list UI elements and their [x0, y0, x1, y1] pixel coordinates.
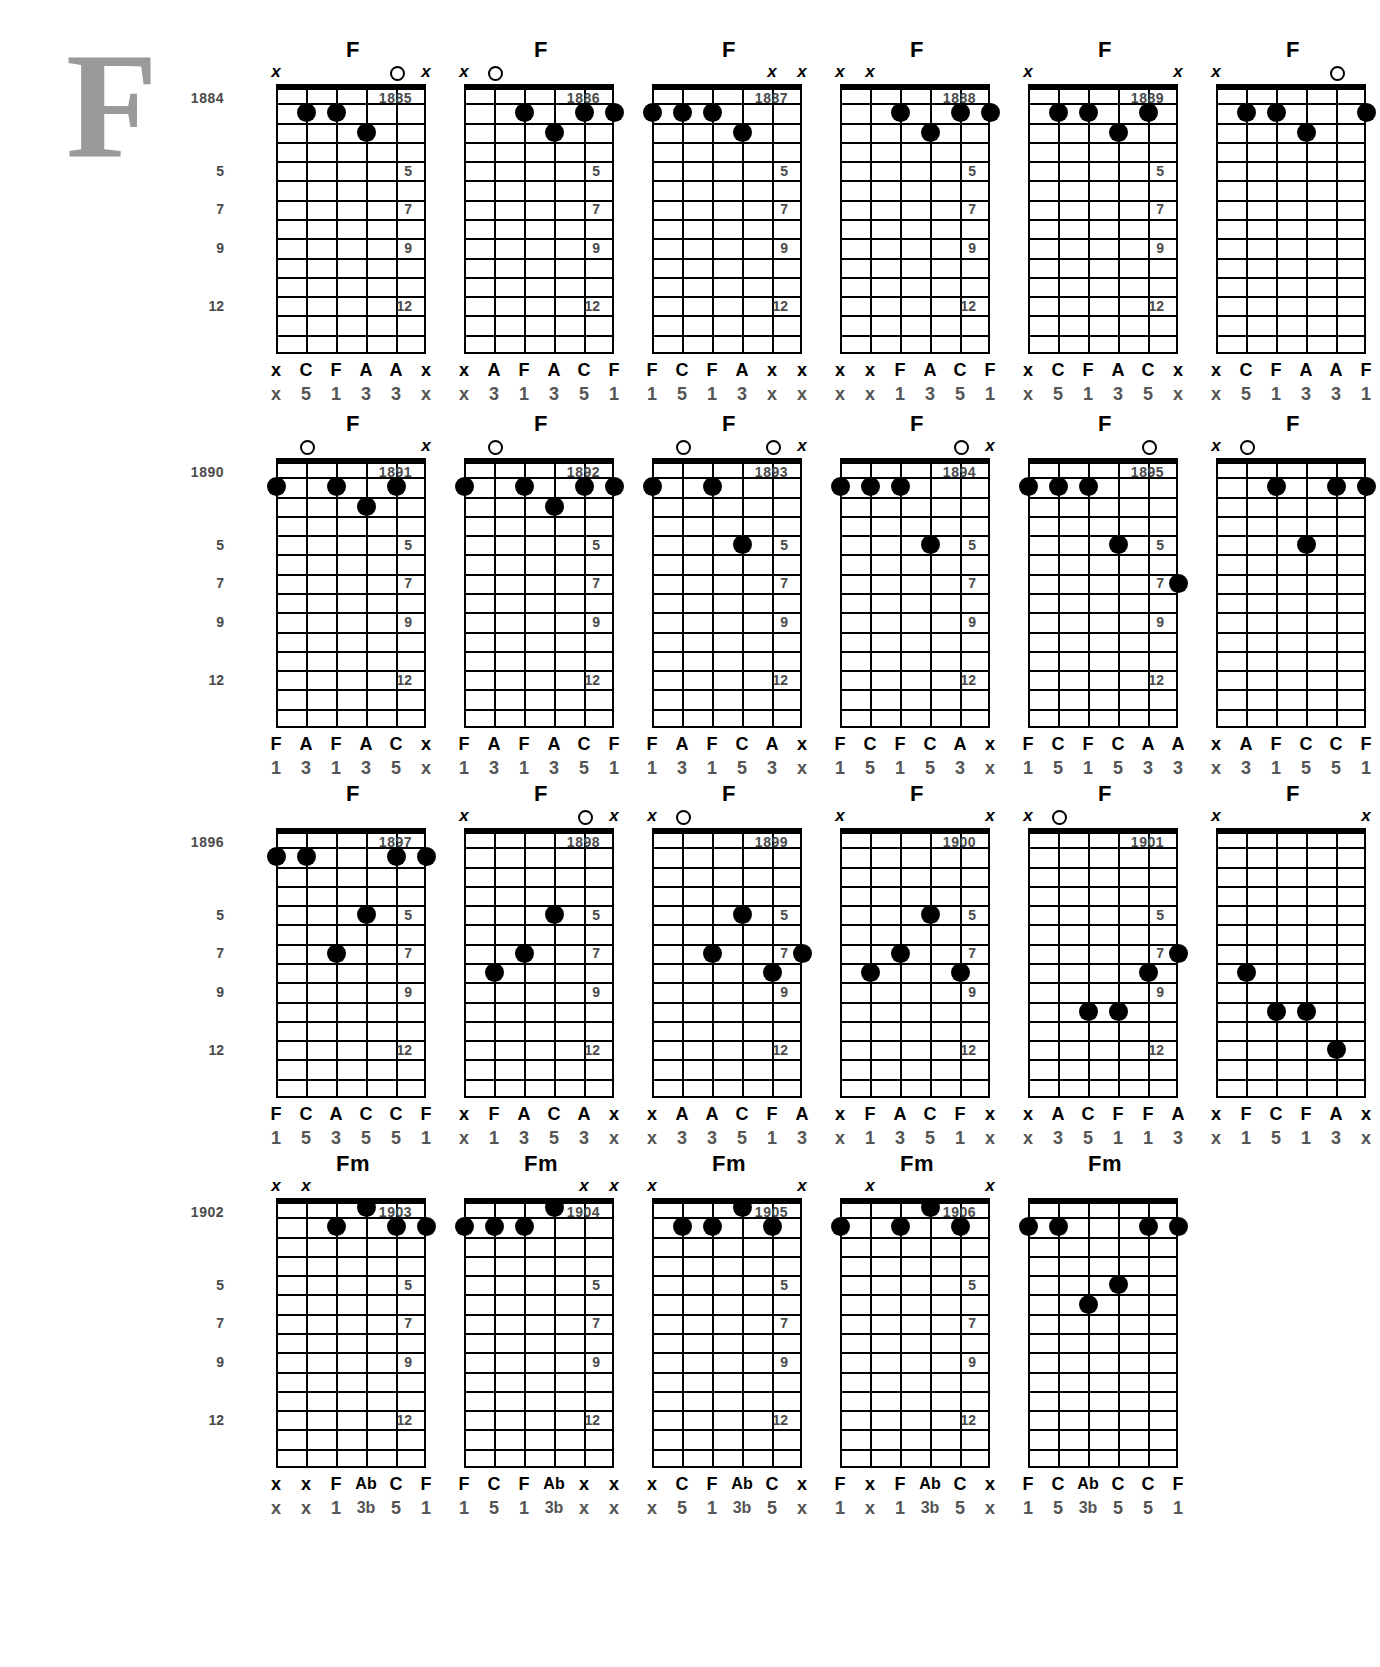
- degree-label: 3: [479, 384, 509, 404]
- chord-index-number: 1889: [1120, 91, 1164, 105]
- degree-label: 5: [1133, 384, 1163, 404]
- fret-marker-label: 12: [382, 1043, 412, 1057]
- finger-dot: [1019, 1217, 1038, 1236]
- fret-line: [1216, 709, 1366, 711]
- chord-name: F: [268, 782, 438, 808]
- degree-label: 1: [855, 1128, 885, 1148]
- chord-diagram[interactable]: Fx188957912xCFAAFx51331: [1168, 38, 1378, 410]
- fret-number-labels: 188957912: [1120, 84, 1164, 354]
- fret-marker-label: 5: [382, 164, 412, 178]
- fretboard[interactable]: [1028, 1198, 1178, 1468]
- open-string-icon: [673, 806, 691, 826]
- note-label: A: [1103, 360, 1133, 380]
- fret-marker-label: 12: [570, 673, 600, 687]
- degree-label: 1: [1351, 758, 1380, 778]
- note-labels: FCFAbxx: [456, 1474, 626, 1496]
- finger-dot: [891, 103, 910, 122]
- finger-dot: [703, 944, 722, 963]
- fret-marker-label: 5: [382, 538, 412, 552]
- fret-number-labels: 188557912: [368, 84, 412, 354]
- note-label: C: [539, 1104, 569, 1124]
- open-string-icon: [297, 436, 315, 456]
- fret-line: [1216, 535, 1366, 537]
- degree-label: 5: [855, 758, 885, 778]
- fretboard[interactable]: [1216, 828, 1366, 1098]
- chord-index-number: 1890: [180, 465, 224, 479]
- note-label: C: [569, 734, 599, 754]
- note-label: C: [1291, 734, 1321, 754]
- note-label: x: [1013, 1104, 1043, 1124]
- note-label: F: [261, 734, 291, 754]
- finger-dot: [1357, 477, 1376, 496]
- muted-string-icon: x: [831, 806, 849, 826]
- note-label: Ab: [915, 1474, 945, 1494]
- open-string-icon: [673, 436, 691, 456]
- finger-dot: [831, 1217, 850, 1236]
- fret-marker-label: 5: [758, 538, 788, 552]
- chord-name: F: [644, 782, 814, 808]
- fret-marker-label: 5: [382, 908, 412, 922]
- note-label: A: [381, 360, 411, 380]
- fret-line: [1216, 161, 1366, 163]
- note-label: A: [885, 1104, 915, 1124]
- fret-line: [1028, 1449, 1178, 1451]
- note-label: F: [757, 1104, 787, 1124]
- fret-marker-label: 5: [570, 1278, 600, 1292]
- degree-label: 5: [1231, 384, 1261, 404]
- frets: [1216, 828, 1366, 1098]
- note-label: C: [569, 360, 599, 380]
- fret-line: [1216, 219, 1366, 221]
- note-label: C: [1043, 1474, 1073, 1494]
- degree-label: 3: [381, 384, 411, 404]
- note-label: x: [757, 360, 787, 380]
- note-label: A: [1133, 734, 1163, 754]
- fretboard[interactable]: [1216, 84, 1366, 354]
- fret-marker-label: 12: [758, 673, 788, 687]
- fret-marker-label: 9: [194, 615, 224, 629]
- muted-string-icon: x: [1207, 436, 1225, 456]
- chord-diagram[interactable]: Fx189557912xAFCCFx31551: [1168, 412, 1378, 784]
- fret-line: [1216, 944, 1366, 946]
- degree-label: 3: [1321, 384, 1351, 404]
- note-label: F: [885, 360, 915, 380]
- chord-diagram[interactable]: Fxx190157912xFCFAxx1513x: [1168, 782, 1378, 1154]
- note-label: C: [1133, 1474, 1163, 1494]
- chord-diagram[interactable]: Fm190657912FCAbCCF153b551: [980, 1152, 1190, 1524]
- fret-marker-label: 9: [758, 241, 788, 255]
- fret-marker-label: 7: [194, 576, 224, 590]
- fret-marker-label: 7: [758, 1316, 788, 1330]
- string-markers: x: [644, 436, 814, 458]
- note-label: Ab: [351, 1474, 381, 1494]
- open-string-icon: [485, 436, 503, 456]
- degree-label: 1: [1013, 758, 1043, 778]
- fret-marker-label: 12: [1134, 1043, 1164, 1057]
- muted-string-icon: x: [763, 62, 781, 82]
- chord-index-number: 1885: [368, 91, 412, 105]
- note-labels: FCACCF: [268, 1104, 438, 1126]
- fret-line: [1216, 574, 1366, 576]
- chord-index-number: 1899: [744, 835, 788, 849]
- degree-labels: 13135x: [268, 758, 438, 780]
- degree-label: 3: [667, 758, 697, 778]
- fret-marker-label: 12: [570, 1043, 600, 1057]
- fret-line: [1216, 142, 1366, 144]
- finger-dot: [1049, 477, 1068, 496]
- note-label: F: [509, 360, 539, 380]
- note-label: A: [945, 734, 975, 754]
- note-label: A: [1291, 360, 1321, 380]
- degree-label: 5: [1261, 1128, 1291, 1148]
- note-label: A: [915, 360, 945, 380]
- degree-label: x: [637, 1128, 667, 1148]
- chord-index-number: 1903: [368, 1205, 412, 1219]
- note-label: x: [1351, 1104, 1380, 1124]
- note-label: C: [915, 1104, 945, 1124]
- muted-string-icon: x: [1019, 62, 1037, 82]
- note-label: F: [449, 734, 479, 754]
- degree-labels: x33513: [644, 1128, 814, 1150]
- finger-dot: [1297, 535, 1316, 554]
- fretboard[interactable]: [1216, 458, 1366, 728]
- fret-marker-label: 9: [382, 241, 412, 255]
- string-markers: [456, 436, 626, 458]
- degree-label: 5: [757, 1498, 787, 1518]
- finger-dot: [891, 944, 910, 963]
